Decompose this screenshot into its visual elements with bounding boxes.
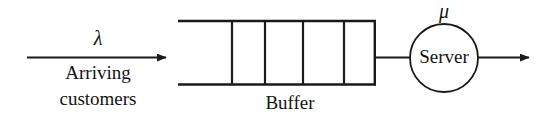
arriving-customers-label-line1: Arriving <box>0 63 196 82</box>
arrival-rate-label: λ <box>0 28 196 48</box>
buffer-label: Buffer <box>205 93 375 112</box>
arriving-customers-label-line2: customers <box>0 89 196 108</box>
service-rate-label: μ <box>410 1 478 21</box>
queueing-system-diagram: λ Arriving customers Buffer μ Server <box>0 0 551 128</box>
server-label: Server <box>410 47 478 66</box>
